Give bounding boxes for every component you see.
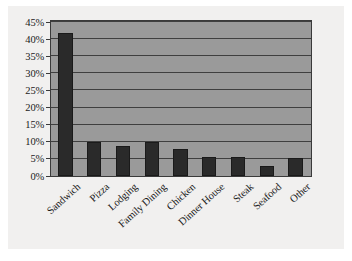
y-tick-mark bbox=[46, 158, 50, 159]
bar[interactable] bbox=[260, 166, 274, 176]
x-tick-label: Family Dining bbox=[116, 181, 168, 229]
chart-card: 0%5%10%15%20%25%30%35%40%45% SandwichPiz… bbox=[8, 6, 344, 249]
x-tick-label: Seafood bbox=[251, 181, 283, 212]
x-tick-label: Other bbox=[288, 181, 313, 205]
bar-series bbox=[51, 21, 311, 176]
y-tick-mark bbox=[46, 73, 50, 74]
y-tick-mark bbox=[46, 107, 50, 108]
x-tick-label: Pizza bbox=[87, 181, 111, 204]
y-tick-mark bbox=[46, 56, 50, 57]
y-tick-label: 10% bbox=[25, 136, 44, 147]
x-tick-label: Steak bbox=[231, 181, 255, 204]
x-tick-label: Dinner House bbox=[176, 181, 226, 228]
y-tick-mark bbox=[46, 39, 50, 40]
bar[interactable] bbox=[58, 33, 72, 176]
bar[interactable] bbox=[145, 142, 159, 176]
y-tick-mark bbox=[46, 22, 50, 23]
y-tick-label: 40% bbox=[25, 33, 44, 44]
y-axis: 0%5%10%15%20%25%30%35%40%45% bbox=[8, 6, 50, 191]
bar[interactable] bbox=[87, 142, 101, 176]
y-tick-mark bbox=[46, 124, 50, 125]
bar[interactable] bbox=[202, 157, 216, 177]
y-tick-label: 25% bbox=[25, 84, 44, 95]
y-tick-label: 0% bbox=[30, 170, 44, 181]
y-tick-mark bbox=[46, 141, 50, 142]
plot-area bbox=[50, 20, 312, 177]
bar[interactable] bbox=[231, 157, 245, 176]
y-tick-label: 5% bbox=[30, 153, 44, 164]
y-tick-label: 35% bbox=[25, 50, 44, 61]
y-tick-mark bbox=[46, 176, 50, 177]
y-tick-label: 45% bbox=[25, 16, 44, 27]
y-tick-label: 30% bbox=[25, 67, 44, 78]
y-tick-label: 20% bbox=[25, 102, 44, 113]
bar[interactable] bbox=[288, 158, 302, 176]
x-tick-label: Chicken bbox=[165, 181, 198, 212]
y-tick-label: 15% bbox=[25, 119, 44, 130]
bar[interactable] bbox=[173, 149, 187, 176]
x-tick-label: Lodging bbox=[107, 181, 140, 213]
x-tick-label: Sandwich bbox=[45, 181, 83, 216]
bar[interactable] bbox=[116, 146, 130, 176]
y-tick-mark bbox=[46, 90, 50, 91]
